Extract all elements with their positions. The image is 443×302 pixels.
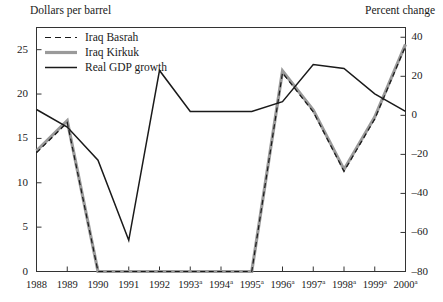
legend-item-kirkuk: Iraq Kirkuk [44, 45, 167, 60]
legend-label-basrah: Iraq Basrah [85, 30, 138, 45]
right-tick-label: –20 [412, 148, 443, 159]
right-tick-label: –60 [412, 226, 443, 237]
series-line [37, 44, 406, 271]
x-tick-label: 2000a [386, 279, 426, 290]
left-tick-label: 0 [2, 266, 28, 277]
dashed-line-icon [44, 32, 78, 43]
right-tick-label: 20 [412, 70, 443, 81]
left-axis-ticks [37, 50, 42, 272]
left-tick-label: 20 [2, 88, 28, 99]
chart-container: Dollars per barrel Percent change 051015… [0, 0, 443, 302]
data-series-group [37, 44, 406, 271]
right-tick-label: 0 [412, 109, 443, 120]
right-axis-ticks [401, 37, 406, 271]
chart-legend: Iraq Basrah Iraq Kirkuk Real GDP growth [44, 30, 167, 75]
legend-label-kirkuk: Iraq Kirkuk [85, 45, 139, 60]
legend-label-gdp: Real GDP growth [85, 60, 167, 75]
right-tick-label: 40 [412, 31, 443, 42]
right-tick-label: –40 [412, 187, 443, 198]
solid-black-line-icon [44, 62, 78, 73]
legend-item-gdp: Real GDP growth [44, 60, 167, 75]
thick-gray-line-icon [44, 47, 78, 58]
left-tick-label: 25 [2, 44, 28, 55]
left-tick-label: 10 [2, 177, 28, 188]
series-line [37, 65, 406, 241]
left-tick-label: 5 [2, 221, 28, 232]
right-tick-label: –80 [412, 266, 443, 277]
legend-item-basrah: Iraq Basrah [44, 30, 167, 45]
left-tick-label: 15 [2, 132, 28, 143]
